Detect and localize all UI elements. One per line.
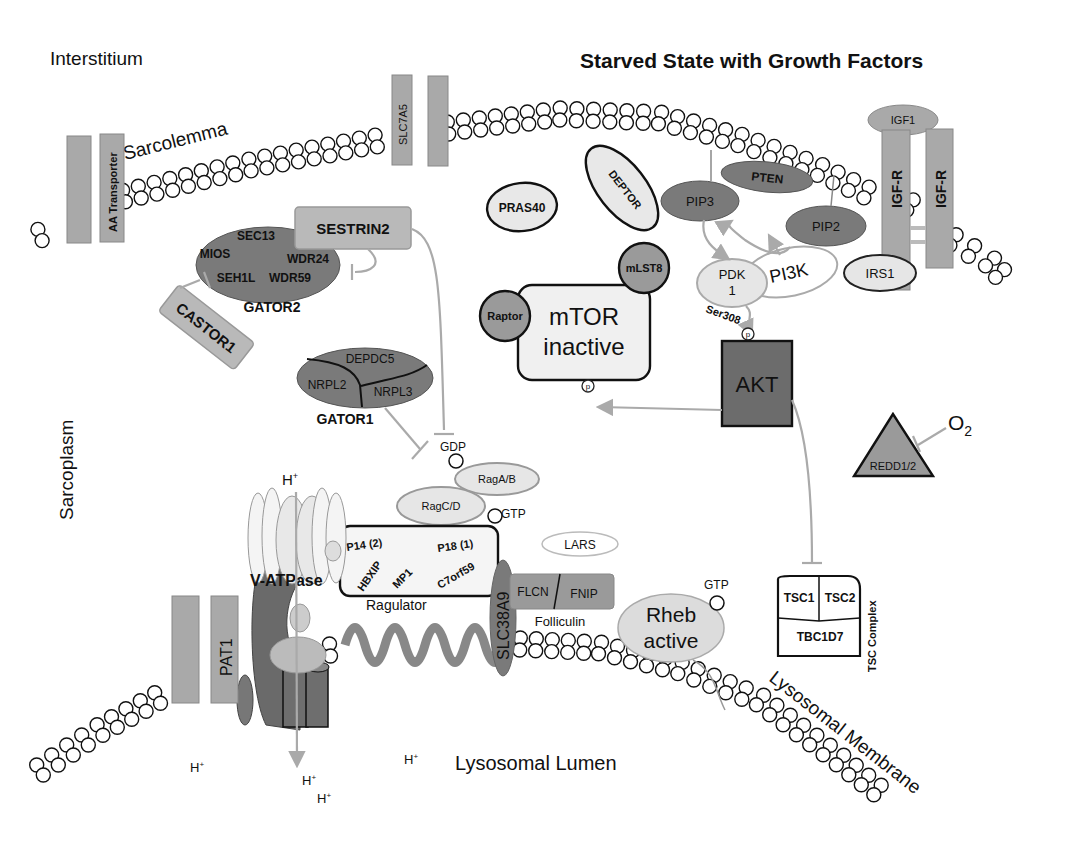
gtp-label-rheb: GTP: [704, 578, 729, 592]
slc7a5-label: SLC7A5: [397, 104, 409, 145]
aa-transporter-label: AA Transporter: [107, 152, 119, 232]
sec13-label: SEC13: [237, 229, 275, 243]
region-interstitium: Interstitium: [50, 48, 143, 69]
oxygen-label: O2: [948, 411, 972, 439]
v-atpase-label: V-ATPase: [250, 572, 323, 589]
igf1-label: IGF1: [891, 114, 915, 126]
transporter-block: [67, 136, 91, 243]
wdr24-label: WDR24: [287, 252, 329, 266]
pip2-label: PIP2: [812, 219, 840, 234]
rheb-label-line1: Rheb: [646, 603, 696, 626]
gtp-label-rag: GTP: [501, 507, 526, 521]
akt-label: AKT: [736, 372, 779, 397]
tsc2-label: TSC2: [825, 591, 856, 605]
pat1-label: PAT1: [218, 638, 235, 676]
proton-top: H+: [282, 471, 298, 488]
raptor-label: Raptor: [487, 310, 523, 322]
gator2-label: GATOR2: [243, 299, 300, 315]
v-atpase: [237, 488, 346, 730]
region-sarcoplasm: Sarcoplasm: [56, 420, 77, 520]
proton-lumen-4: H+: [404, 752, 418, 767]
ragulator-anchor-coil: [345, 628, 505, 663]
tsc-complex-label: TSC Complex: [866, 600, 878, 672]
nrpl3-label: NRPL3: [374, 385, 413, 399]
pip3-label: PIP3: [686, 194, 714, 209]
wdr59-label: WDR59: [269, 271, 311, 285]
tsc-complex: [778, 576, 860, 656]
rheb-label-line2: active: [644, 629, 699, 652]
mtor-label-line2: inactive: [543, 333, 624, 360]
mtor-phospho-label: p: [586, 382, 591, 391]
tsc1-label: TSC1: [784, 591, 815, 605]
slc7a5-partner: [428, 76, 448, 166]
raga-b-label: RagA/B: [478, 473, 516, 485]
sestrin2-label: SESTRIN2: [316, 220, 389, 237]
pras40-label: PRAS40: [499, 201, 546, 215]
gator1-label: GATOR1: [316, 411, 373, 427]
gdp-site: [449, 454, 463, 468]
proton-lumen-1: H+: [190, 760, 204, 775]
fnip-label: FNIP: [570, 587, 597, 601]
mios-label: MIOS: [200, 247, 231, 261]
redd1-2-label: REDD1/2: [870, 460, 916, 472]
mtor-pathway-diagram: Interstitium Starved State with Growth F…: [0, 0, 1077, 856]
pdk1-label-line1: PDK: [719, 267, 746, 282]
slc38a9-label: SLC38A9: [495, 591, 512, 660]
proton-lumen-3: H+: [317, 791, 331, 806]
folliculin-label: Folliculin: [535, 614, 586, 629]
lars-label: LARS: [564, 538, 595, 552]
igf-receptor-right-label: IGF-R: [933, 170, 949, 208]
mlst8-label: mLST8: [626, 262, 663, 274]
ragc-d-label: RagC/D: [421, 500, 460, 512]
pdk1-label-line2: 1: [728, 283, 735, 298]
mtor-label-line1: mTOR: [549, 303, 619, 330]
pat1-partner: [172, 596, 199, 703]
region-lysosomal-lumen: Lysosomal Lumen: [455, 752, 617, 774]
gtp-site-rheb: [710, 596, 724, 610]
diagram-title: Starved State with Growth Factors: [580, 49, 923, 72]
tbc1d7-label: TBC1D7: [797, 630, 844, 644]
gdp-label: GDP: [440, 440, 466, 454]
proton-lumen-2: H+: [302, 773, 316, 788]
ragulator-label: Ragulator: [366, 597, 427, 613]
akt-phospho-label: p: [746, 330, 751, 339]
flcn-label: FLCN: [517, 585, 548, 599]
irs1-label: IRS1: [866, 266, 895, 281]
nrpl2-label: NRPL2: [308, 378, 347, 392]
depdc5-label: DEPDC5: [346, 352, 395, 366]
sarcolemma-label: Sarcolemma: [121, 118, 230, 164]
seh1l-label: SEH1L: [217, 271, 256, 285]
gtp-site-rag: [488, 509, 502, 523]
igf-receptor-left-label: IGF-R: [889, 170, 905, 208]
